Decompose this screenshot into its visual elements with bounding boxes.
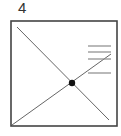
intersection-dot (69, 80, 75, 86)
diagonal-line-bottom-left-to-upper-right (12, 54, 111, 125)
square-diagram (0, 0, 121, 136)
horizontal-rules (88, 46, 111, 73)
diagonal-lines (12, 27, 111, 125)
